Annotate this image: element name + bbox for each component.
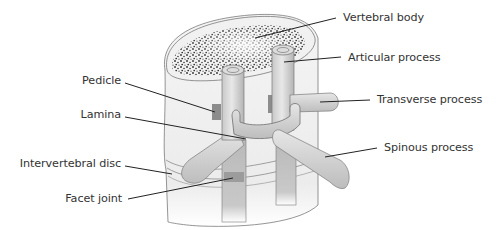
vertebra-diagram: Vertebral body Articular process Transve… — [0, 0, 496, 230]
label-intervertebral-disc: Intervertebral disc — [20, 157, 121, 170]
label-lamina: Lamina — [81, 108, 121, 121]
label-spinous-process: Spinous process — [384, 141, 473, 154]
label-articular-process: Articular process — [348, 51, 440, 64]
leader-spinous-process — [325, 148, 377, 157]
pedicle-shape-left — [212, 104, 221, 120]
label-vertebral-body: Vertebral body — [343, 11, 424, 24]
label-facet-joint: Facet joint — [65, 192, 122, 205]
label-transverse-process: Transverse process — [377, 93, 482, 106]
leader-intervertebral-disc — [125, 166, 172, 174]
label-pedicle: Pedicle — [82, 74, 121, 87]
